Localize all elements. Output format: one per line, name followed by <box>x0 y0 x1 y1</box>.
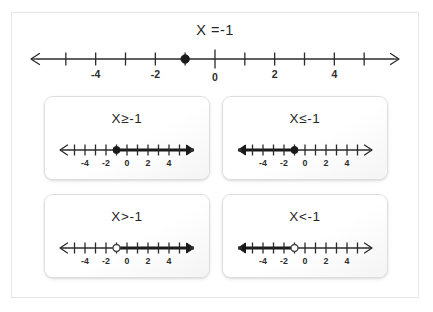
svg-text:0: 0 <box>303 256 308 266</box>
number-line-less-than: -4-2024 <box>231 235 379 271</box>
number-line-less-or-equal: -4-2024 <box>231 137 379 173</box>
worksheet-page: X =-1 -4-2024 X≥-1 -4-2024 X≤-1 -4-2024 … <box>0 0 433 312</box>
svg-text:-4: -4 <box>91 68 100 80</box>
svg-text:2: 2 <box>146 158 151 168</box>
card-title-less-than: X<-1 <box>223 209 387 224</box>
svg-text:4: 4 <box>167 158 172 168</box>
svg-text:-2: -2 <box>151 68 160 80</box>
card-greater-or-equal[interactable]: X≥-1 -4-2024 <box>44 96 210 180</box>
number-line-greater-than: -4-2024 <box>53 235 201 271</box>
svg-text:-2: -2 <box>280 256 288 266</box>
svg-text:2: 2 <box>324 256 329 266</box>
svg-text:0: 0 <box>212 71 218 83</box>
svg-text:4: 4 <box>167 256 172 266</box>
svg-text:0: 0 <box>125 158 130 168</box>
svg-text:2: 2 <box>146 256 151 266</box>
svg-text:-2: -2 <box>280 158 288 168</box>
svg-text:-4: -4 <box>81 158 89 168</box>
svg-text:4: 4 <box>331 68 337 80</box>
card-greater-than[interactable]: X>-1 -4-2024 <box>44 194 210 278</box>
card-title-greater-than: X>-1 <box>45 209 209 224</box>
svg-text:2: 2 <box>272 68 278 80</box>
svg-text:-4: -4 <box>259 256 267 266</box>
svg-text:-2: -2 <box>102 158 110 168</box>
number-line-greater-or-equal: -4-2024 <box>53 137 201 173</box>
svg-text:-2: -2 <box>102 256 110 266</box>
svg-text:0: 0 <box>303 158 308 168</box>
card-title-less-or-equal: X≤-1 <box>223 111 387 126</box>
number-line-equation: -4-2024 <box>22 45 408 83</box>
equation-block: X =-1 -4-2024 <box>22 22 408 84</box>
card-less-than[interactable]: X<-1 -4-2024 <box>222 194 388 278</box>
svg-text:4: 4 <box>345 158 350 168</box>
svg-text:4: 4 <box>345 256 350 266</box>
svg-text:2: 2 <box>324 158 329 168</box>
svg-text:0: 0 <box>125 256 130 266</box>
card-title-greater-or-equal: X≥-1 <box>45 111 209 126</box>
svg-text:-4: -4 <box>259 158 267 168</box>
card-less-or-equal[interactable]: X≤-1 -4-2024 <box>222 96 388 180</box>
svg-text:-4: -4 <box>81 256 89 266</box>
equation-title: X =-1 <box>22 22 408 38</box>
